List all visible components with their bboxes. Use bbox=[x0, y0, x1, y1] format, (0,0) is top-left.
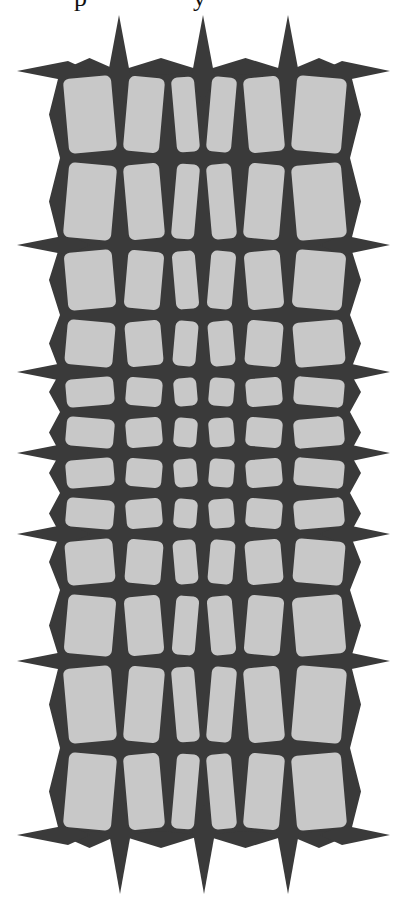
tile bbox=[206, 595, 236, 656]
tile bbox=[207, 250, 237, 310]
tile bbox=[243, 163, 285, 241]
tile bbox=[63, 752, 117, 831]
tile bbox=[63, 665, 117, 744]
tile bbox=[125, 457, 163, 488]
tile bbox=[172, 320, 199, 367]
tile bbox=[64, 538, 116, 586]
tile bbox=[243, 753, 285, 831]
tile bbox=[244, 320, 284, 368]
tile bbox=[291, 665, 347, 744]
tile bbox=[292, 538, 346, 586]
tile bbox=[173, 498, 198, 529]
tile bbox=[64, 319, 116, 368]
tile bbox=[293, 457, 345, 489]
tile bbox=[123, 753, 165, 831]
tile bbox=[244, 539, 284, 586]
tile bbox=[208, 417, 235, 448]
tile bbox=[291, 75, 347, 154]
tile bbox=[125, 416, 163, 448]
tile bbox=[173, 458, 198, 488]
tile bbox=[124, 539, 164, 586]
tile bbox=[291, 162, 347, 241]
tile bbox=[123, 163, 165, 241]
tile bbox=[207, 539, 236, 585]
tile bbox=[173, 377, 198, 407]
tile bbox=[245, 497, 283, 529]
tile bbox=[65, 497, 115, 530]
tile bbox=[63, 75, 117, 154]
tile bbox=[291, 752, 347, 831]
tile bbox=[65, 457, 115, 489]
tile bbox=[64, 249, 117, 311]
tile bbox=[292, 594, 347, 657]
tile bbox=[63, 162, 117, 241]
tile bbox=[208, 458, 235, 488]
tile bbox=[173, 417, 198, 448]
tile bbox=[208, 377, 235, 407]
tile bbox=[293, 497, 345, 530]
tile bbox=[243, 595, 284, 657]
tile bbox=[65, 376, 115, 408]
tile bbox=[293, 376, 345, 408]
tile bbox=[124, 320, 164, 368]
tile bbox=[292, 249, 347, 311]
tile bbox=[207, 320, 236, 367]
tile bbox=[125, 497, 163, 529]
tile bbox=[123, 595, 164, 657]
tile bbox=[243, 666, 285, 744]
tile bbox=[244, 250, 285, 311]
tile bbox=[123, 76, 165, 154]
tile bbox=[124, 250, 165, 311]
tile bbox=[172, 539, 199, 585]
tile bbox=[243, 76, 285, 154]
tile bbox=[245, 416, 283, 448]
tile bbox=[123, 666, 165, 744]
tile bbox=[245, 376, 283, 407]
tile bbox=[65, 416, 115, 449]
tile bbox=[125, 376, 163, 407]
tile bbox=[208, 498, 235, 529]
tile bbox=[245, 457, 283, 488]
kirigami-tiling-diagram bbox=[0, 0, 410, 906]
tile bbox=[64, 594, 117, 657]
tile bbox=[293, 416, 345, 449]
tile bbox=[292, 319, 346, 368]
